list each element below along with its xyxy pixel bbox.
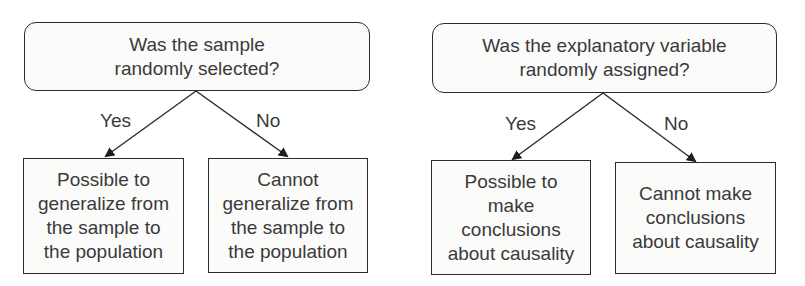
outcome-text: Possible to make conclusions about causa… xyxy=(448,170,575,266)
question-box-assignment: Was the explanatory variable randomly as… xyxy=(432,23,777,93)
yes-label: Yes xyxy=(100,110,131,132)
no-label: No xyxy=(256,110,280,132)
outcome-text: Cannot generalize from the sample to the… xyxy=(223,168,354,264)
question-text: Was the sample randomly selected? xyxy=(115,33,280,81)
outcome-box-generalize-yes: Possible to generalize from the sample t… xyxy=(23,158,184,274)
outcome-box-causality-no: Cannot make conclusions about causality xyxy=(615,162,776,274)
yes-label: Yes xyxy=(505,113,536,135)
question-box-sample: Was the sample randomly selected? xyxy=(24,22,370,91)
outcome-text: Cannot make conclusions about causality xyxy=(632,182,759,254)
outcome-text: Possible to generalize from the sample t… xyxy=(38,168,169,264)
outcome-box-causality-yes: Possible to make conclusions about causa… xyxy=(431,160,591,275)
question-text: Was the explanatory variable randomly as… xyxy=(482,34,726,82)
no-label: No xyxy=(664,113,688,135)
outcome-box-generalize-no: Cannot generalize from the sample to the… xyxy=(208,158,368,273)
